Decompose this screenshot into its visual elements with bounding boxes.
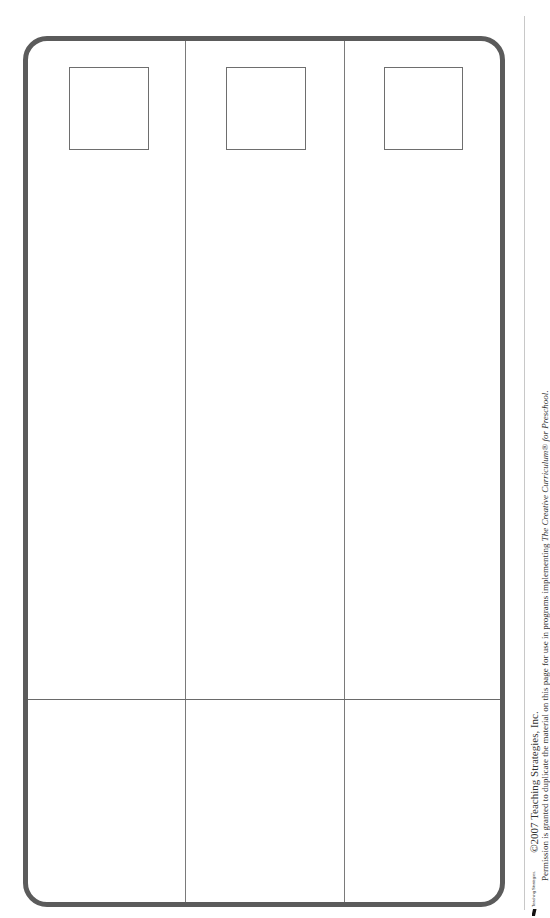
logo-mark-icon — [532, 909, 537, 916]
column-2-writing-area[interactable] — [186, 700, 344, 902]
worksheet-frame — [23, 36, 505, 907]
column-1-drawing-area[interactable] — [28, 41, 185, 699]
copyright-text: ©2007 Teaching Strategies, Inc. — [528, 711, 540, 853]
curriculum-title: The Creative Curriculum® for Preschool — [540, 393, 550, 542]
permission-text: Permission is granted to duplicate the m… — [540, 390, 550, 881]
column-1-writing-area[interactable] — [28, 700, 185, 902]
margin-rule — [524, 16, 525, 910]
permission-suffix: . — [540, 390, 550, 392]
permission-prefix: Permission is granted to duplicate the m… — [540, 541, 550, 881]
column-3-writing-area[interactable] — [345, 700, 500, 902]
footer: Teaching Strategies. ©2007 Teaching Stra… — [528, 390, 550, 918]
column-2-drawing-area[interactable] — [186, 41, 344, 699]
logo-text: Teaching Strategies. — [532, 871, 536, 907]
column-3-drawing-area[interactable] — [345, 41, 500, 699]
teaching-strategies-logo: Teaching Strategies. — [532, 871, 537, 916]
